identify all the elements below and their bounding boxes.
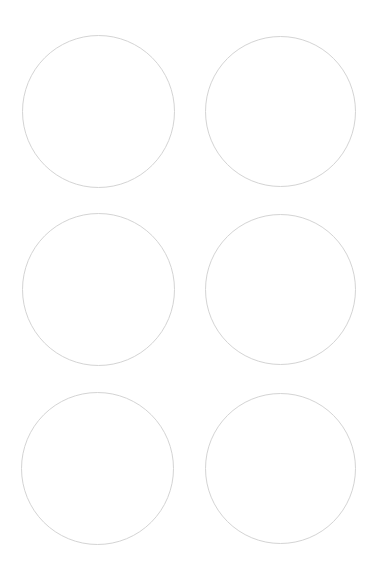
circle-r3-c2 bbox=[205, 393, 356, 544]
circle-r1-c2 bbox=[205, 36, 356, 187]
circle-r2-c2 bbox=[205, 214, 356, 365]
circle-r1-c1 bbox=[22, 35, 175, 188]
circle-r3-c1 bbox=[21, 392, 174, 545]
circle-r2-c1 bbox=[22, 213, 175, 366]
